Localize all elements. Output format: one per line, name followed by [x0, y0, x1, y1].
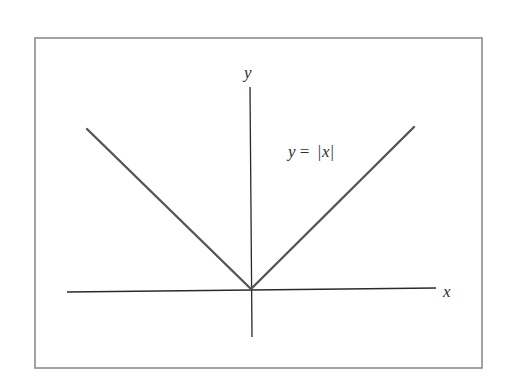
equation-abs-bar-left: |	[318, 142, 321, 161]
equation-y: y	[286, 142, 296, 161]
equation-label: y = |x|	[286, 142, 334, 161]
y-axis-label: y	[242, 63, 252, 82]
equation-equals: =	[296, 142, 314, 161]
x-axis-label: x	[442, 282, 451, 301]
figure-frame	[35, 38, 482, 368]
equation-abs-bar-right: |	[331, 142, 334, 161]
equation-x: x	[321, 142, 330, 161]
abs-value-graph: y x y = |x|	[0, 0, 508, 386]
